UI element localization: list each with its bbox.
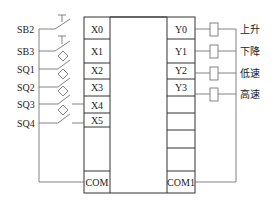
- device-sb3: SB3: [17, 46, 34, 57]
- output-terminals: Y0 Y1 Y2 Y3 COM1: [167, 24, 195, 188]
- terminal-x2: X2: [91, 65, 103, 76]
- device-sq2: SQ2: [17, 82, 35, 93]
- pushbutton-icon: [55, 41, 70, 51]
- load-up: 上升: [240, 24, 260, 35]
- coil-icon: [210, 45, 218, 58]
- device-sq4: SQ4: [17, 118, 35, 129]
- device-sq1: SQ1: [17, 64, 35, 75]
- limit-switch-icon: [39, 86, 84, 104]
- load-low-speed: 低速: [240, 67, 260, 79]
- terminal-y2: Y2: [175, 65, 187, 76]
- load-down: 下降: [240, 45, 260, 57]
- input-wiring: [39, 15, 167, 182]
- terminal-x1: X1: [91, 46, 103, 57]
- terminal-com1: COM1: [167, 177, 195, 188]
- limit-switch-icon: [39, 69, 70, 87]
- plc-wiring-diagram: X0 X1 X2 X3 X4 X5 COM Y0 Y1 Y2 Y3 COM1: [0, 0, 274, 208]
- terminal-x0: X0: [91, 24, 103, 35]
- coil-icon: [210, 23, 218, 36]
- load-high-speed: 高速: [240, 88, 260, 100]
- terminal-y1: Y1: [175, 46, 187, 57]
- coil-icon: [210, 67, 218, 80]
- terminal-x4: X4: [91, 100, 103, 111]
- device-sb2: SB2: [17, 24, 34, 35]
- coil-icon: [210, 88, 218, 101]
- pushbutton-icon: [55, 19, 70, 29]
- terminal-y3: Y3: [175, 82, 187, 93]
- terminal-x3: X3: [91, 82, 103, 93]
- input-terminals: X0 X1 X2 X3 X4 X5 COM: [84, 24, 110, 188]
- limit-switch-icon: [39, 105, 84, 123]
- terminal-com: COM: [86, 177, 109, 188]
- device-sq3: SQ3: [17, 99, 35, 110]
- limit-switch-icon: [39, 51, 70, 69]
- output-wiring: [195, 23, 236, 182]
- terminal-y0: Y0: [175, 24, 187, 35]
- terminal-x5: X5: [91, 115, 103, 126]
